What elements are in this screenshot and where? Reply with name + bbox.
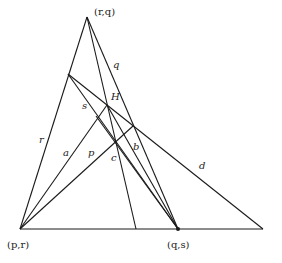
- line-d: [68, 74, 263, 229]
- line-c: [107, 105, 178, 229]
- label-line-a: a: [63, 148, 69, 158]
- label-line-b: b: [133, 142, 139, 152]
- line-r: [20, 17, 87, 229]
- label-line-q: q: [113, 60, 119, 70]
- label-bottom-left-point: (p,r): [7, 240, 29, 250]
- point-dot-qs: [176, 227, 180, 231]
- line-p: [20, 126, 133, 229]
- label-bottom-mid-point: (q,s): [167, 240, 190, 250]
- label-line-r: r: [39, 135, 44, 145]
- label-line-c: c: [111, 153, 117, 163]
- label-line-s: s: [82, 101, 87, 111]
- line-a: [20, 105, 107, 229]
- label-apex-point: (r,q): [94, 7, 115, 17]
- label-point-H: H: [111, 92, 120, 102]
- label-line-p: p: [88, 148, 94, 158]
- geometry-diagram: (r,q) (p,r) (q,s) H q r s a p c b d: [0, 0, 282, 263]
- diagram-canvas: [0, 0, 282, 263]
- label-line-d: d: [199, 161, 205, 171]
